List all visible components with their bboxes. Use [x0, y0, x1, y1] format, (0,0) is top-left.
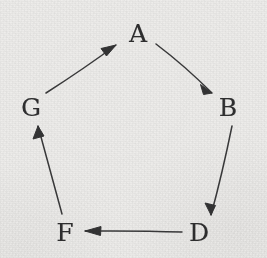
edge-line-A-B [156, 44, 212, 93]
node-label-A: A [129, 21, 147, 46]
arrowhead-A-B [201, 85, 213, 95]
arrowhead-B-D [205, 203, 216, 215]
arrowhead-D-F [85, 227, 101, 236]
edge-A-to-B [156, 44, 212, 95]
node-label-D: D [189, 220, 209, 245]
edge-G-to-A [46, 45, 116, 93]
node-label-F: F [56, 220, 73, 245]
arrowhead-F-G [33, 126, 44, 139]
node-label-B: B [219, 95, 237, 120]
edge-D-to-F [85, 227, 182, 236]
edge-F-to-G [33, 126, 62, 214]
edge-line-F-G [38, 126, 62, 214]
node-label-G: G [21, 95, 41, 120]
edge-B-to-D [205, 126, 232, 215]
diagram-canvas: A B D F G [0, 0, 267, 258]
edge-line-B-D [211, 126, 232, 215]
